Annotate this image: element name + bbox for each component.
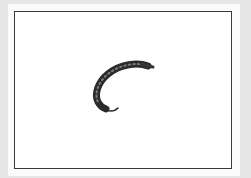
fishing-fly-image	[90, 58, 156, 114]
